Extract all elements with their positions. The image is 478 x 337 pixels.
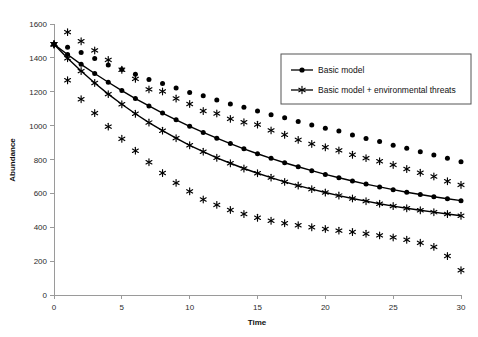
data-point — [241, 146, 246, 151]
data-point — [282, 115, 287, 120]
data-point — [146, 86, 152, 93]
data-point — [309, 168, 314, 173]
data-point — [160, 88, 166, 95]
y-tick-label: 400 — [34, 223, 48, 232]
data-point — [350, 229, 356, 236]
data-point — [255, 214, 261, 221]
x-axis-title: Time — [248, 318, 267, 327]
data-point — [444, 253, 450, 260]
data-point — [79, 50, 84, 55]
data-point — [214, 154, 220, 161]
data-point — [227, 115, 233, 122]
data-point — [241, 119, 247, 126]
data-point — [92, 110, 98, 117]
data-point — [241, 105, 246, 110]
data-point — [418, 149, 423, 154]
data-point — [336, 129, 341, 134]
chart-canvas: 02004006008001000120014001600 0510152025… — [0, 0, 478, 337]
x-axis: 051015202530 — [52, 295, 466, 312]
data-point — [255, 109, 260, 114]
data-point — [119, 135, 125, 142]
x-tick-label: 15 — [253, 303, 262, 312]
y-axis: 02004006008001000120014001600 — [29, 20, 54, 300]
legend-marker-circle-icon — [299, 67, 304, 72]
abundance-time-chart: 02004006008001000120014001600 0510152025… — [0, 0, 478, 337]
data-point — [228, 101, 233, 106]
data-point — [404, 236, 410, 243]
data-point — [227, 160, 233, 167]
x-tick-label: 20 — [321, 303, 330, 312]
data-point — [444, 178, 450, 185]
data-point — [214, 136, 219, 141]
chart-legend: Basic model Basic model + environmental … — [281, 54, 471, 104]
x-tick-label: 30 — [457, 303, 466, 312]
data-point — [78, 96, 84, 103]
data-point — [78, 38, 84, 45]
data-point — [255, 121, 261, 128]
legend-background — [281, 54, 471, 104]
data-point — [214, 201, 220, 208]
data-point — [174, 117, 179, 122]
data-point — [173, 179, 179, 186]
data-point — [214, 110, 220, 117]
data-point — [146, 103, 151, 108]
data-point — [364, 136, 369, 141]
data-point — [65, 45, 70, 50]
y-tick-label: 0 — [43, 291, 48, 300]
data-point — [459, 198, 464, 203]
data-point — [201, 93, 206, 98]
data-point — [269, 112, 274, 117]
data-point — [132, 110, 138, 117]
data-point — [364, 182, 369, 187]
data-point — [431, 243, 437, 250]
data-point — [323, 126, 328, 131]
data-point — [390, 234, 396, 241]
data-point — [269, 156, 274, 161]
data-point — [200, 108, 206, 115]
y-axis-title: Abundance — [8, 138, 17, 182]
data-point — [350, 151, 356, 158]
data-point — [268, 217, 274, 224]
data-point — [336, 227, 342, 234]
data-point — [227, 207, 233, 214]
data-point — [391, 143, 396, 148]
data-point — [431, 153, 436, 158]
data-point — [309, 122, 314, 127]
data-point — [417, 239, 423, 246]
legend-label-1: Basic model + environmental threats — [318, 85, 456, 95]
data-point — [65, 29, 71, 36]
y-tick-label: 1000 — [29, 122, 47, 131]
data-point — [377, 158, 383, 165]
data-point — [173, 95, 179, 102]
data-point — [160, 170, 166, 177]
data-point — [255, 151, 260, 156]
data-point — [431, 173, 437, 180]
data-point — [160, 127, 166, 134]
data-point — [173, 135, 179, 142]
data-point — [295, 136, 301, 143]
data-point — [296, 119, 301, 124]
data-point — [133, 96, 138, 101]
data-point — [350, 179, 355, 184]
data-point — [214, 97, 219, 102]
y-tick-label: 1600 — [29, 20, 47, 29]
y-tick-label: 200 — [34, 257, 48, 266]
data-point — [200, 148, 206, 155]
data-point — [106, 80, 111, 85]
data-point — [187, 101, 193, 108]
data-point — [445, 156, 450, 161]
data-point — [377, 139, 382, 144]
data-point — [282, 220, 288, 227]
data-point — [296, 164, 301, 169]
data-point — [132, 75, 138, 82]
data-point — [160, 111, 165, 116]
x-tick-label: 0 — [52, 303, 57, 312]
data-point — [322, 226, 328, 233]
data-point — [187, 188, 193, 195]
data-point — [174, 86, 179, 91]
y-tick-label: 1400 — [29, 54, 47, 63]
data-point — [363, 230, 369, 237]
data-point — [201, 130, 206, 135]
y-tick-label: 600 — [34, 189, 48, 198]
data-point — [105, 123, 111, 130]
